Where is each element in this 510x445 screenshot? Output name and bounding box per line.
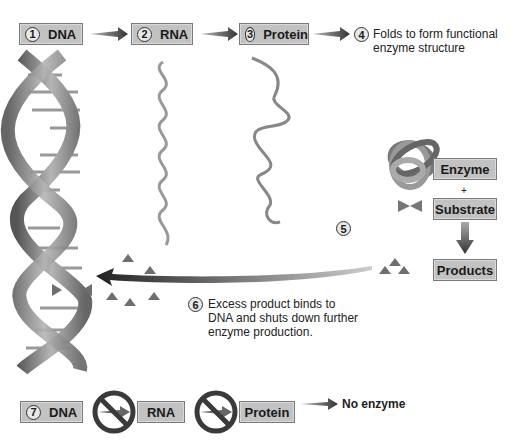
step-number: 2 [137,27,152,42]
diagram-graphics [0,0,510,445]
step-number-5: 5 [336,221,351,236]
products-box: Products [433,259,497,281]
fold-line-1: Folds to form functional [373,27,498,41]
fold-line-2: enzyme structure [373,41,498,55]
blocked-rna-label: RNA [147,405,175,420]
step-dna-box: 1 DNA [19,23,83,45]
arrow-dna-to-rna [90,27,128,41]
step-label: Protein [263,27,308,42]
blocked-dna-box: 7 DNA [20,401,83,423]
protein-strand-icon [252,58,289,223]
arrow-substrate-to-products [456,222,474,254]
products-label: Products [437,263,493,278]
blocked-dna-label: DNA [49,405,77,420]
plus-sign: + [461,184,467,198]
step-number-7: 7 [26,405,41,420]
step-label: DNA [48,27,76,42]
feedback-line-3: enzyme production. [208,325,358,339]
feedback-arrow [96,266,372,286]
product-triangles-icon [379,258,410,274]
step-rna-box: 2 RNA [131,23,193,45]
substrate-label: Substrate [435,202,495,217]
arrow-protein-to-fold [312,27,350,41]
no-enzyme-label: No enzyme [342,397,405,411]
feedback-line-2: DNA and shuts down further [208,311,358,325]
step-number: 4 [354,27,369,42]
blocked-rna-box: RNA [137,401,185,423]
step-number-6: 6 [188,297,203,312]
enzyme-label: Enzyme [440,162,489,177]
blocked-arrow-dna-rna [95,393,133,431]
arrow-rna-to-protein [200,27,238,41]
dna-helix-icon [8,55,86,370]
step-label: RNA [160,27,188,42]
enzyme-box: Enzyme [433,158,497,180]
rna-strand-icon [159,62,168,245]
substrate-box: Substrate [433,198,497,220]
step-protein-box: 3 Protein [239,23,309,45]
step-number: 1 [25,27,40,42]
arrow-protein-to-no-enzyme [300,398,338,410]
blocked-protein-label: Protein [245,405,290,420]
fold-description: Folds to form functional enzyme structur… [373,27,498,55]
blocked-protein-box: Protein [239,401,295,423]
substrate-icon [398,200,422,212]
step-number: 3 [245,27,255,42]
feedback-description: Excess product binds to DNA and shuts do… [208,297,358,339]
feedback-line-1: Excess product binds to [208,297,358,311]
blocked-arrow-rna-protein [197,393,235,431]
